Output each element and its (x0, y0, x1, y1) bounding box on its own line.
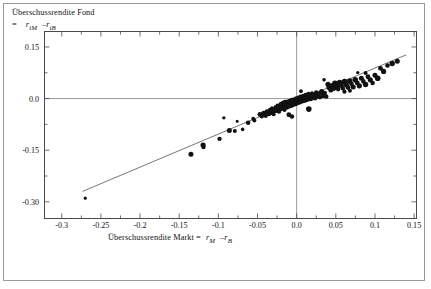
data-point (252, 119, 256, 123)
x-axis-r1-subscript: M (209, 237, 215, 244)
x-tick-label: 0.0 (292, 221, 302, 230)
data-point (370, 81, 374, 85)
x-axis-title: Überschussrendite Markt =rM–rB (108, 232, 232, 246)
data-point (395, 59, 400, 64)
x-axis-r2-subscript: B (228, 237, 232, 244)
data-point (222, 116, 225, 119)
y-axis-title-line1: Überschussrendite Fond (12, 8, 95, 17)
regression-line (83, 55, 406, 191)
data-point (271, 112, 275, 116)
x-tick-label: -0.3 (55, 221, 68, 230)
y-tick-label: -0.30 (0, 197, 39, 206)
data-point (306, 106, 312, 112)
data-point (233, 129, 237, 133)
data-point (299, 89, 303, 93)
x-tick-label: -0.1 (212, 221, 225, 230)
data-point (342, 90, 346, 94)
data-point (290, 114, 294, 118)
y-axis-r2-subscript: iB (50, 24, 56, 31)
data-point (241, 128, 245, 132)
y-tick-label: -0.15 (0, 146, 39, 155)
axis-ticks (45, 32, 416, 218)
x-tick-label: 0.1 (370, 221, 380, 230)
x-tick-label: -0.25 (92, 221, 109, 230)
data-point (364, 71, 368, 75)
x-tick-label: -0.15 (171, 221, 188, 230)
plot-area-frame (44, 31, 417, 219)
data-point (324, 94, 328, 98)
data-point (351, 84, 356, 89)
x-tick-label: 0.05 (329, 221, 343, 230)
y-tick-label: 0.0 (0, 94, 39, 103)
data-point (246, 120, 251, 125)
data-point (201, 145, 205, 149)
y-axis-equals-sign: = (12, 20, 17, 29)
x-tick-label: 0.15 (407, 221, 421, 230)
figure-container: Überschussrendite Fond =riM–riB Überschu… (0, 0, 431, 289)
data-point (348, 89, 352, 93)
data-point (356, 71, 359, 74)
data-point (217, 137, 221, 141)
data-point (389, 61, 394, 66)
y-tick-label: 0.15 (0, 42, 39, 51)
data-point (236, 120, 239, 123)
data-point (84, 197, 87, 200)
data-points (84, 59, 400, 200)
data-point (322, 78, 326, 82)
data-point (381, 69, 386, 74)
data-point (227, 128, 232, 133)
data-point (363, 82, 368, 87)
x-tick-label: -0.2 (134, 221, 147, 230)
scatter-plot-canvas (45, 32, 416, 218)
data-point (385, 63, 390, 68)
data-point (188, 152, 193, 157)
x-tick-label: -0.05 (249, 221, 266, 230)
y-axis-title: Überschussrendite Fond =riM–riB (12, 7, 95, 33)
data-point (336, 87, 341, 92)
y-axis-r1-subscript: iM (29, 24, 37, 31)
data-point (357, 83, 362, 88)
data-point (375, 75, 381, 81)
x-axis-title-text: Überschussrendite Markt = (108, 233, 201, 242)
